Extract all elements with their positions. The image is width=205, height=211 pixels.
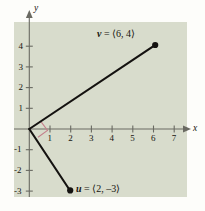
vector-v-label: v = ⟨6, 4⟩ xyxy=(97,29,135,39)
vector-diagram-figure: y x 1 2 3 4 5 6 7 4 3 2 1 -1 -2 -3 v = ⟨… xyxy=(0,0,205,211)
vector-u-label-components: ⟨2, –3⟩ xyxy=(92,183,120,194)
y-tick-label-3: 3 xyxy=(19,63,24,72)
x-tick-label-6: 6 xyxy=(151,134,156,143)
y-tick-label-neg1: -1 xyxy=(14,145,22,154)
vector-u-endpoint-dot xyxy=(67,187,73,193)
y-tick-label-neg3: -3 xyxy=(14,187,22,196)
vector-v-endpoint-dot xyxy=(152,42,158,48)
vector-v-label-components: ⟨6, 4⟩ xyxy=(112,28,135,39)
y-axis xyxy=(26,10,33,197)
x-tick-label-2: 2 xyxy=(68,134,73,143)
y-tick-label-4: 4 xyxy=(19,42,24,51)
x-tick-label-5: 5 xyxy=(130,134,135,143)
y-tick-label-1: 1 xyxy=(19,104,24,113)
x-tick-label-7: 7 xyxy=(172,134,177,143)
x-tick-label-1: 1 xyxy=(48,134,53,143)
y-tick-label-neg2: -2 xyxy=(14,166,22,175)
x-tick-label-3: 3 xyxy=(89,134,94,143)
vector-v xyxy=(29,42,158,129)
x-axis xyxy=(14,126,191,133)
y-axis-label: y xyxy=(34,4,38,14)
vector-u-label-equals: = xyxy=(82,183,93,194)
x-axis-label: x xyxy=(193,124,197,134)
vector-v-label-equals: = xyxy=(101,28,112,39)
x-tick-label-4: 4 xyxy=(110,134,115,143)
y-tick-label-2: 2 xyxy=(19,83,24,92)
vector-u-label: u = ⟨2, –3⟩ xyxy=(76,184,120,194)
